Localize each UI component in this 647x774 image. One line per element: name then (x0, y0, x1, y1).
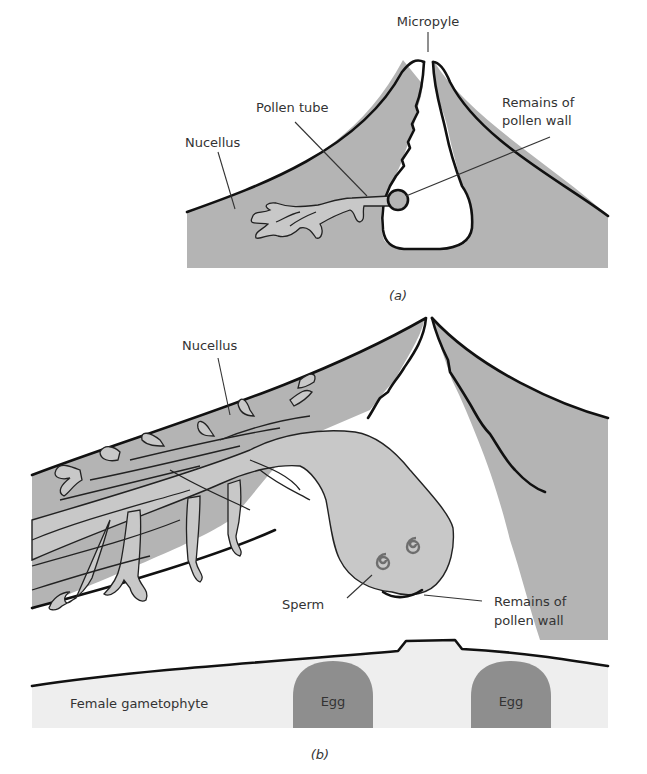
sperm-label: Sperm (282, 597, 324, 612)
pollen-tube-label: Pollen tube (256, 100, 329, 115)
egg-label-left: Egg (321, 694, 346, 709)
female-gametophyte-label: Female gametophyte (70, 696, 208, 711)
panel-a: Micropyle Pollen tube Nucellus Remains o… (185, 14, 608, 303)
panel-b: Nucellus Sperm Remains of pollen wall Fe… (32, 318, 608, 762)
remains-label-a-line1: Remains of (502, 95, 575, 110)
remains-leader-b (424, 595, 482, 601)
pollination-diagram: Micropyle Pollen tube Nucellus Remains o… (0, 0, 647, 774)
caption-a: (a) (389, 288, 407, 303)
caption-b: (b) (311, 747, 329, 762)
remains-label-b-line2: pollen wall (494, 613, 564, 628)
egg-label-right: Egg (499, 694, 524, 709)
nucellus-right-b (432, 318, 608, 640)
nucellus-label-a: Nucellus (185, 135, 241, 150)
nucellus-label-b: Nucellus (182, 338, 238, 353)
remains-label-b-line1: Remains of (494, 594, 567, 609)
pollen-wall-remains-a (388, 190, 408, 210)
micropyle-label: Micropyle (397, 14, 460, 29)
remains-label-a-line2: pollen wall (502, 113, 572, 128)
